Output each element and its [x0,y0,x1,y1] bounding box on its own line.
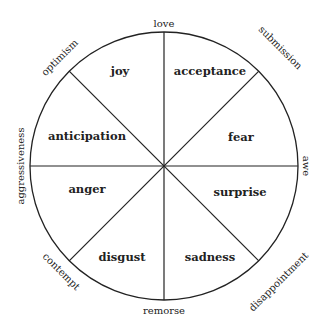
dyad-optimism: optimism [39,37,80,78]
emotion-joy: joy [110,64,130,78]
emotion-acceptance: acceptance [174,64,246,78]
emotion-sadness: sadness [185,250,236,264]
dyad-disappointment: disappointment [247,250,311,314]
primary-emotions: joy acceptance fear surprise sadness dis… [48,64,267,264]
dyad-love: love [154,18,175,29]
dyad-submission: submission [257,24,305,72]
dyad-awe: awe [301,156,312,177]
dyad-aggressiveness: aggressiveness [15,127,26,204]
dyad-remorse: remorse [143,305,185,316]
emotion-disgust: disgust [98,250,146,264]
emotion-wheel-diagram: joy acceptance fear surprise sadness dis… [0,0,321,330]
emotion-surprise: surprise [213,185,266,199]
emotion-fear: fear [228,130,255,144]
dyad-contempt: contempt [41,251,83,293]
emotion-anger: anger [68,182,106,196]
emotion-anticipation: anticipation [48,129,127,143]
